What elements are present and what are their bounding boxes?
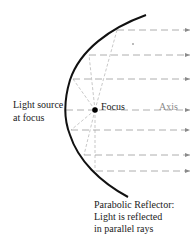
focus-label: Focus	[101, 101, 125, 112]
caption-line2: Light is reflected	[94, 211, 162, 222]
light-source-label-line2: at focus	[13, 112, 44, 123]
caption-line3: in parallel rays	[94, 223, 154, 234]
focus-point	[92, 107, 98, 113]
decorative-dot	[132, 43, 133, 44]
axis-label: Axis	[159, 101, 178, 112]
parabolic-reflector-diagram: Light source at focus Focus Axis Parabol…	[0, 0, 196, 246]
caption-line1: Parabolic Reflector:	[94, 199, 174, 210]
light-source-label-line1: Light source	[13, 99, 64, 110]
